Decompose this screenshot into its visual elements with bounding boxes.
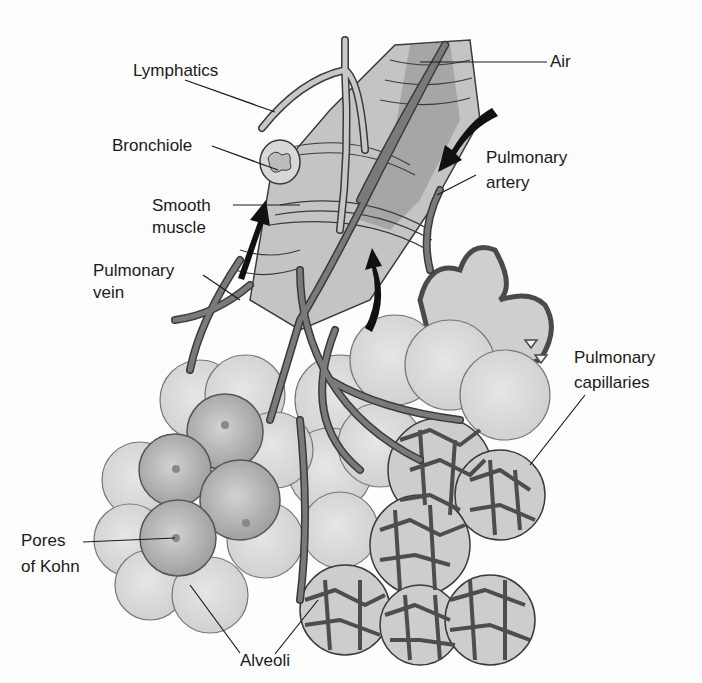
label-pores-of-kohn-line2: of Kohn <box>21 556 80 577</box>
label-pulmonary-capillaries-line2: capillaries <box>574 372 650 393</box>
lung-lobule-diagram: Lymphatics Bronchiole Smooth muscle Pulm… <box>0 0 702 683</box>
label-pulmonary-vein-line2: vein <box>93 282 124 303</box>
label-air: Air <box>550 51 571 72</box>
label-lymphatics: Lymphatics <box>133 60 218 81</box>
label-pulmonary-artery-line2: artery <box>486 172 529 193</box>
label-pores-of-kohn-line1: Pores <box>21 530 65 551</box>
anatomy-illustration <box>0 0 702 683</box>
label-pulmonary-capillaries-line1: Pulmonary <box>574 347 655 368</box>
label-bronchiole: Bronchiole <box>112 135 192 156</box>
pore-of-kohn <box>221 421 229 429</box>
label-smooth-muscle-line1: Smooth <box>152 195 211 216</box>
label-pulmonary-artery-line1: Pulmonary <box>486 147 567 168</box>
label-alveoli: Alveoli <box>240 650 290 671</box>
label-smooth-muscle-line2: muscle <box>152 217 206 238</box>
label-pulmonary-vein-line1: Pulmonary <box>93 260 174 281</box>
